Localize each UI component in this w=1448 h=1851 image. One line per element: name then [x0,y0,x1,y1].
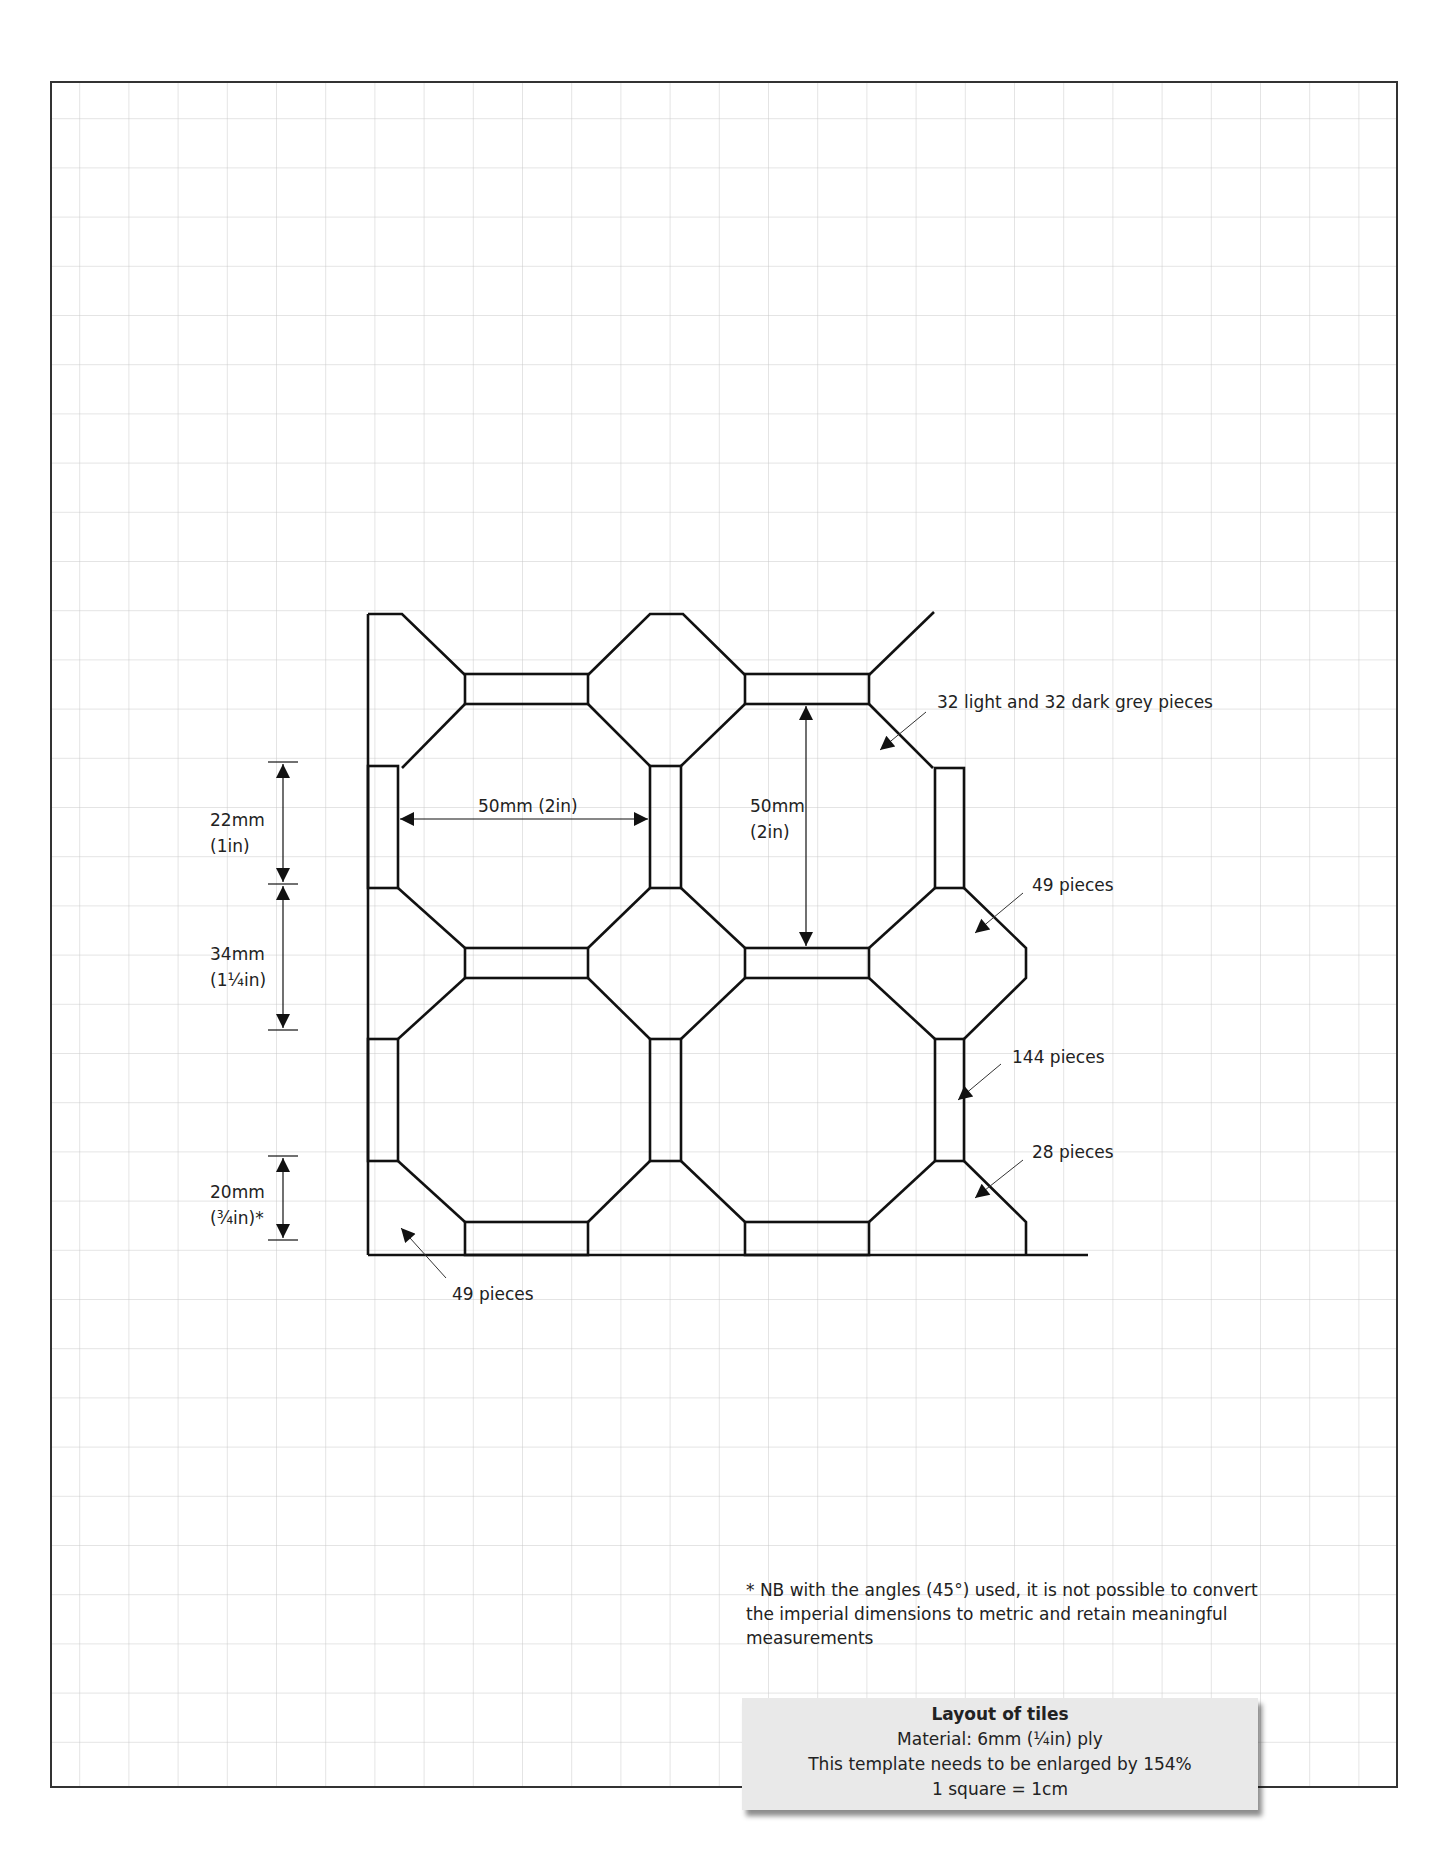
caption-enlarge: This template needs to be enlarged by 15… [742,1752,1258,1777]
dim-height-mm-label: 50mm [750,794,805,818]
dim-height-in-label: (2in) [750,820,790,844]
caption-box: Layout of tiles Material: 6mm (¼in) ply … [742,1698,1258,1810]
dim-34mm-label: 34mm [210,942,265,966]
callout-edge-pieces: 28 pieces [1032,1140,1114,1164]
dim-22mm-label: 22mm [210,808,265,832]
footnote: * NB with the angles (45°) used, it is n… [746,1578,1266,1650]
dim-20mm-label: 20mm [210,1180,265,1204]
callout-octagons: 32 light and 32 dark grey pieces [937,690,1213,714]
grid-area [51,82,1397,1787]
dim-1-25in-label: (1¼in) [210,968,266,992]
dim-1in-label: (1in) [210,834,250,858]
callout-bars: 144 pieces [1012,1045,1105,1069]
graph-paper-sheet [0,0,1448,1851]
callout-corner-pieces: 49 pieces [452,1282,534,1306]
dim-width-label: 50mm (2in) [478,794,578,818]
caption-material: Material: 6mm (¼in) ply [742,1727,1258,1752]
callout-squares: 49 pieces [1032,873,1114,897]
dim-0-75in-label: (¾in)* [210,1206,264,1230]
caption-scale: 1 square = 1cm [742,1777,1258,1802]
caption-title: Layout of tiles [742,1702,1258,1727]
